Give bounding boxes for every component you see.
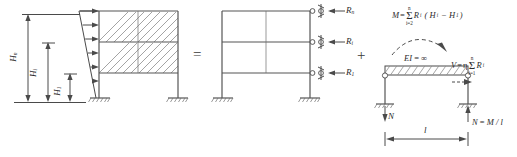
span-label: l (424, 126, 427, 135)
panel-c-supports (0, 0, 517, 157)
axial-label-left: N (388, 112, 394, 121)
structural-diagram: Hn Hi H1 (0, 0, 517, 157)
axial-label-right: N = M / l (472, 118, 503, 127)
